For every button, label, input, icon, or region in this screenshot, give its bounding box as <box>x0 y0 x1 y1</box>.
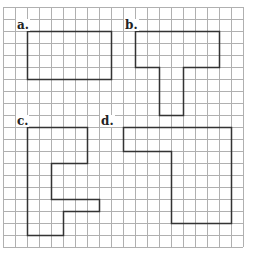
grid-diagram: a. b. c. d. <box>0 0 254 254</box>
label-a: a. <box>16 19 30 31</box>
label-d: d. <box>100 115 115 127</box>
grid-canvas <box>0 0 254 254</box>
shape-b <box>136 32 220 116</box>
label-c: c. <box>16 115 29 127</box>
label-b: b. <box>124 19 139 31</box>
